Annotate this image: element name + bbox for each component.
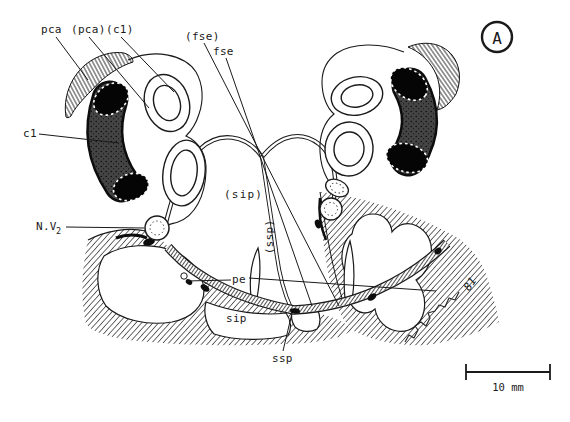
right-duct-rings — [323, 72, 387, 178]
right-concha-tube — [383, 61, 433, 177]
leader-nv2 — [66, 227, 144, 228]
panel-letter-badge: A — [482, 22, 512, 52]
leader-fse-paren — [204, 43, 339, 306]
panel-letter: A — [492, 29, 502, 48]
scale-bar-label: 10 mm — [492, 381, 524, 393]
left-sinus-cavity — [98, 246, 204, 324]
label-sip-paren: (sip) — [224, 188, 263, 201]
label-pca-paren: (pca) — [71, 23, 106, 36]
label-nv2-subscript: 2 — [56, 226, 61, 236]
label-c1: c1 — [23, 127, 37, 140]
label-fse: fse — [213, 45, 234, 58]
label-pe: pe — [232, 273, 246, 286]
anatomical-figure-panel: pca (pca) (c1) (fse) fse c1 N.V 2 (sip) … — [0, 0, 570, 422]
label-pca: pca — [41, 23, 62, 36]
left-nv2-nerve — [145, 216, 169, 240]
label-sip: sip — [226, 312, 247, 325]
leader-fse — [226, 58, 312, 306]
right-nasal-structure — [320, 43, 460, 194]
label-fse-paren: (fse) — [185, 30, 220, 43]
label-nv2: N.V — [36, 220, 57, 233]
label-ssp: ssp — [272, 352, 293, 365]
scale-bar: 10 mm — [466, 364, 550, 393]
label-c1-paren: (c1) — [106, 23, 134, 36]
label-ssp-paren-vertical: (ssp) — [263, 220, 276, 255]
left-septal-blade — [250, 248, 259, 299]
anatomical-drawing: pca (pca) (c1) (fse) fse c1 N.V 2 (sip) … — [0, 0, 570, 422]
leader-pca — [56, 37, 88, 80]
